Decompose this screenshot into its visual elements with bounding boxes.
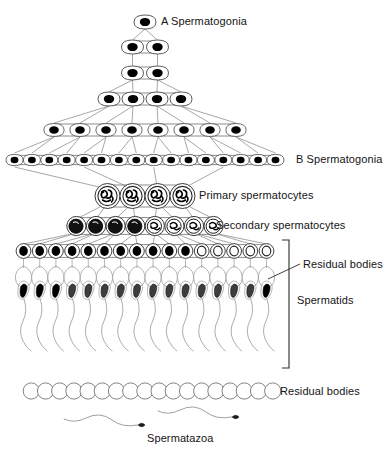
- cell-row-a-spermatogonia-2: [122, 40, 169, 54]
- spermatids-bracket: [282, 240, 289, 368]
- spermatazoon: [64, 415, 145, 427]
- residual-body: [80, 383, 96, 399]
- cell: [41, 154, 58, 165]
- cell: [113, 244, 128, 259]
- label-b-spermatogonia: B Spermatogonia: [296, 153, 383, 165]
- cell: [120, 184, 145, 209]
- residual-body: [250, 383, 266, 399]
- spermatid-tail: [37, 299, 48, 351]
- cell: [232, 154, 249, 165]
- cell: [215, 154, 232, 165]
- cell: [227, 244, 242, 259]
- diagram-canvas: A Spermatogonia B Spermatogonia Primary …: [0, 0, 391, 454]
- residual-body: [208, 383, 224, 399]
- cell-row-elongating-spermatids: [15, 259, 274, 351]
- spermatid-tail: [102, 299, 113, 351]
- cell: [98, 92, 120, 106]
- spermatid-tail: [183, 299, 194, 351]
- residual-body: [236, 383, 252, 399]
- label-secondary-spermatocytes: Secondary spermatocytes: [216, 219, 345, 231]
- cell: [259, 244, 274, 259]
- spermatid-tail: [231, 299, 242, 351]
- label-residual-bodies-upper: Residual bodies: [303, 258, 383, 270]
- cell: [267, 154, 284, 165]
- spermatid-head: [198, 284, 205, 297]
- cell: [67, 216, 86, 235]
- residual-body: [165, 383, 181, 399]
- residual-body: [66, 383, 82, 399]
- cell: [194, 244, 209, 259]
- spermatid-tail: [215, 299, 226, 351]
- spermatid-tail: [150, 299, 161, 351]
- cell: [93, 154, 110, 165]
- cell: [97, 244, 112, 259]
- cell-row-a-spermatogonia-4: [98, 92, 192, 106]
- cell: [174, 124, 194, 137]
- cell: [122, 92, 144, 106]
- cell: [145, 184, 170, 209]
- cell: [170, 92, 192, 106]
- label-spermatids: Spermatids: [297, 294, 354, 306]
- spermatid-head: [85, 284, 92, 297]
- spermatid-head: [182, 284, 189, 297]
- cell: [165, 216, 184, 235]
- cell: [200, 124, 220, 137]
- spermatid-head: [36, 284, 43, 297]
- cell: [122, 66, 144, 80]
- cell: [146, 244, 161, 259]
- cell: [96, 124, 116, 137]
- cell: [95, 184, 120, 209]
- spermatid-tail: [134, 299, 145, 351]
- cell: [170, 184, 195, 209]
- cell: [130, 244, 145, 259]
- residual-body: [137, 383, 153, 399]
- cell: [162, 244, 177, 259]
- label-residual-bodies-lower: Residual bodies: [280, 385, 360, 397]
- label-spermatazoa: Spermatazoa: [147, 432, 214, 444]
- cell: [122, 40, 144, 54]
- cell: [145, 216, 164, 235]
- cell: [197, 154, 214, 165]
- cell: [106, 216, 125, 235]
- spermatid-head: [20, 284, 27, 297]
- cell: [226, 124, 246, 137]
- residual-body: [108, 383, 124, 399]
- residual-body-chain: [23, 383, 281, 399]
- label-primary-spermatocytes: Primary spermatocytes: [199, 189, 314, 201]
- cell-row-a-spermatogonia-1: [134, 15, 156, 29]
- spermatid-head: [214, 284, 221, 297]
- spermatid-tail: [247, 299, 257, 351]
- spermatid-head: [263, 284, 270, 297]
- spermatid-tail: [199, 299, 210, 351]
- cell: [110, 154, 127, 165]
- spermatid-tail: [166, 299, 177, 351]
- cell: [23, 154, 40, 165]
- cell: [145, 154, 162, 165]
- spermatid-tail: [21, 299, 32, 351]
- cell: [180, 154, 197, 165]
- cell-row-secondary-spermatocytes: [67, 216, 223, 235]
- residual-body: [194, 383, 210, 399]
- cell: [148, 124, 168, 137]
- cell: [126, 216, 145, 235]
- spermatid-head: [117, 284, 124, 297]
- residual-body: [179, 383, 195, 399]
- cell: [163, 154, 180, 165]
- spermatazoon: [158, 407, 239, 419]
- cell-row-round-spermatids: [16, 244, 274, 259]
- cell: [128, 154, 145, 165]
- free-spermatazoa: [64, 407, 239, 427]
- cell: [58, 154, 75, 165]
- cell: [178, 244, 193, 259]
- cell: [49, 244, 64, 259]
- spermatid-head: [150, 284, 157, 297]
- cell: [70, 124, 90, 137]
- spermatid-head: [166, 284, 173, 297]
- cell: [81, 244, 96, 259]
- cell: [250, 154, 267, 165]
- cell-row-a-spermatogonia-5: [44, 124, 246, 137]
- cell: [76, 154, 93, 165]
- cell: [32, 244, 47, 259]
- cell-row-a-spermatogonia-3: [122, 66, 169, 80]
- spermatid-head: [247, 284, 254, 297]
